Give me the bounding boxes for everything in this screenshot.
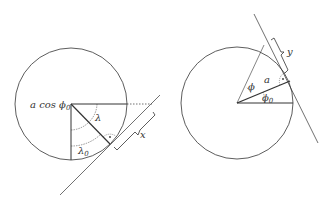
- left-diagram: [15, 48, 160, 195]
- left-right-angle-dot: [109, 136, 111, 138]
- right-right-angle-dot: [282, 78, 284, 80]
- right-phi-label: ϕ: [248, 81, 255, 92]
- right-y-brace: [271, 38, 288, 73]
- left-lambda0-arc: [71, 134, 101, 146]
- left-arc-2: [71, 122, 89, 130]
- right-y-label: y: [286, 46, 293, 57]
- left-lambda-label: λ: [94, 112, 101, 123]
- projection-diagram: a cos ϕ0 λ λ0 x ϕ a ϕ0 y: [0, 0, 331, 206]
- left-lambda0-label: λ0: [77, 145, 89, 158]
- right-phi-line: [237, 45, 264, 103]
- left-tangent-line: [60, 95, 160, 195]
- left-x-label: x: [140, 129, 146, 140]
- left-diagonal-radius: [71, 104, 110, 144]
- right-a-label: a: [264, 74, 270, 85]
- left-radius-label: a cos ϕ0: [30, 99, 71, 112]
